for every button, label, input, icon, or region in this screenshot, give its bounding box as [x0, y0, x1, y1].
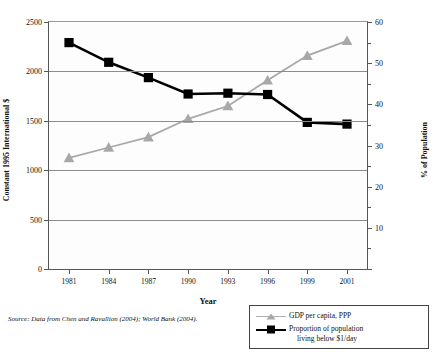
y-axis-left-tick-label: 500: [30, 215, 42, 224]
data-point-square: [184, 89, 193, 98]
y-axis-right-tick: [367, 228, 372, 229]
y-axis-right-tick: [367, 104, 372, 105]
x-axis-tick: [69, 269, 70, 274]
legend-label-poverty-line2: living below $1/day: [289, 334, 363, 344]
data-point-triangle: [143, 132, 154, 142]
y-axis-left-tick: [44, 121, 49, 122]
y-axis-right-minor-tick: [367, 207, 371, 208]
y-axis-right-minor-tick: [367, 125, 371, 126]
x-axis-tick-label: 1999: [300, 277, 315, 286]
legend-item-gdp: GDP per capita, PPP: [256, 311, 351, 322]
data-point-square: [223, 89, 232, 98]
data-point-triangle: [342, 35, 353, 45]
series-layer: [49, 22, 367, 269]
x-axis-title: Year: [200, 296, 217, 306]
y-axis-right-tick: [367, 187, 372, 188]
y-axis-left-tick-label: 1500: [26, 116, 42, 125]
y-axis-right-tick: [367, 269, 372, 270]
x-axis-tick-label: 1993: [220, 277, 235, 286]
y-axis-right-minor-tick: [367, 43, 371, 44]
y-axis-left-tick-label: 1000: [26, 166, 42, 175]
y-axis-right-minor-tick: [367, 84, 371, 85]
x-axis-tick: [188, 269, 189, 274]
y-axis-left-tick: [44, 170, 49, 171]
y-axis-right-tick: [367, 22, 372, 23]
x-axis-tick: [347, 269, 348, 274]
data-point-triangle: [262, 75, 273, 85]
legend-label-poverty-line1: Proportion of population: [289, 324, 363, 333]
x-axis-tick: [148, 269, 149, 274]
x-axis-tick-label: 1990: [181, 277, 196, 286]
gridline: [49, 121, 367, 122]
y-axis-right-title: % of Population: [420, 122, 429, 178]
x-axis-tick: [109, 269, 110, 274]
data-point-square: [263, 90, 272, 99]
data-point-triangle: [223, 101, 234, 111]
gridline: [49, 220, 367, 221]
y-axis-right-tick: [367, 63, 372, 64]
x-axis-tick-label: 1984: [101, 277, 116, 286]
y-axis-right-minor-tick: [367, 248, 371, 249]
chart-legend: GDP per capita, PPP Proportion of popula…: [249, 305, 429, 349]
x-axis-tick-label: 1981: [62, 277, 77, 286]
source-note: Source: Data from Chen and Ravallion (20…: [8, 315, 197, 323]
gridline: [49, 170, 367, 171]
gridline: [49, 71, 367, 72]
x-axis-tick-label: 1987: [141, 277, 156, 286]
y-axis-left-tick: [44, 220, 49, 221]
legend-marker-square-icon: [256, 324, 286, 335]
y-axis-right-minor-tick: [367, 166, 371, 167]
y-axis-left-tick: [44, 269, 49, 270]
data-point-square: [144, 73, 153, 82]
y-axis-right-tick: [367, 146, 372, 147]
x-axis-tick: [307, 269, 308, 274]
y-axis-right-tick-label: 50: [375, 59, 383, 68]
legend-label-gdp: GDP per capita, PPP: [289, 311, 351, 321]
legend-marker-triangle-icon: [256, 311, 286, 322]
y-axis-right-tick-label: 40: [375, 100, 383, 109]
y-axis-right-tick-label: 10: [375, 223, 383, 232]
x-axis-tick-label: 1996: [260, 277, 275, 286]
chart-figure: Constant 1995 International $ % of Popul…: [0, 0, 437, 352]
y-axis-right-tick-label: 30: [375, 141, 383, 150]
y-axis-left-tick-label: 0: [38, 265, 42, 274]
y-axis-left-title: Constant 1995 International $: [2, 99, 11, 201]
x-axis-tick: [268, 269, 269, 274]
y-axis-right-tick-label: 60: [375, 18, 383, 27]
y-axis-left-tick: [44, 71, 49, 72]
y-axis-left-tick: [44, 22, 49, 23]
data-point-square: [104, 58, 113, 67]
y-axis-right-tick-label: 20: [375, 182, 383, 191]
x-axis-tick-label: 2001: [340, 277, 355, 286]
plot-area: 0500100015002000250010203040506019811984…: [48, 21, 368, 270]
data-point-square: [64, 38, 73, 47]
y-axis-left-tick-label: 2000: [26, 67, 42, 76]
data-point-square: [303, 118, 312, 127]
y-axis-left-tick-label: 2500: [26, 18, 42, 27]
legend-item-poverty: Proportion of population living below $1…: [256, 324, 363, 343]
x-axis-tick: [228, 269, 229, 274]
